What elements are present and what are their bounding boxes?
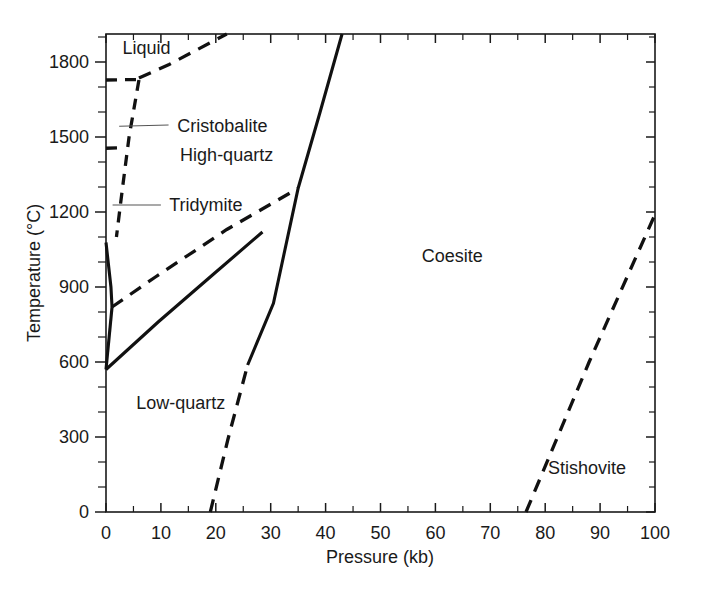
x-tick-label-70: 70 xyxy=(480,523,500,543)
x-tick-label-20: 20 xyxy=(206,523,226,543)
x-tick-label-10: 10 xyxy=(151,523,171,543)
y-tick-label-1200: 1200 xyxy=(49,202,89,222)
curve-lowquartz-highquartz-solid xyxy=(106,307,112,370)
curve-lowquartz-tridymite-solid xyxy=(106,232,262,370)
curve-quartz-coesite-solid xyxy=(248,34,342,365)
y-tick-label-0: 0 xyxy=(79,502,89,522)
curve-cristobalite-liquid-flat xyxy=(106,80,139,81)
phase-label-liquid: Liquid xyxy=(122,38,170,58)
curve-highquartz-lowquartz-solid xyxy=(106,243,112,308)
tick-marks xyxy=(95,34,655,512)
phase-label-low-quartz: Low-quartz xyxy=(136,393,225,413)
axes xyxy=(106,34,655,512)
y-axis-title: Temperature (°C) xyxy=(24,204,44,342)
x-tick-label-30: 30 xyxy=(261,523,281,543)
x-tick-label-60: 60 xyxy=(425,523,445,543)
y-tick-label-900: 900 xyxy=(59,277,89,297)
y-tick-label-1500: 1500 xyxy=(49,127,89,147)
phase-label-stishovite: Stishovite xyxy=(548,458,626,478)
x-tick-label-0: 0 xyxy=(101,523,111,543)
y-tick-label-300: 300 xyxy=(59,427,89,447)
x-tick-label-90: 90 xyxy=(590,523,610,543)
phase-label-high-quartz: High-quartz xyxy=(180,145,273,165)
phase-label-tridymite: Tridymite xyxy=(169,195,242,215)
plot-frame xyxy=(106,34,655,512)
x-tick-label-40: 40 xyxy=(316,523,336,543)
phase-field-labels: LiquidCristobaliteHigh-quartzTridymiteLo… xyxy=(122,38,626,478)
y-tick-label-1800: 1800 xyxy=(49,52,89,72)
phase-diagram-figure: 0102030405060708090100030060090012001500… xyxy=(0,0,703,590)
cristobalite-leader xyxy=(119,125,168,126)
curve-quartz-coesite-dashed xyxy=(210,365,247,512)
phase-diagram-svg: 0102030405060708090100030060090012001500… xyxy=(0,0,703,590)
phase-label-coesite: Coesite xyxy=(422,246,483,266)
x-tick-label-50: 50 xyxy=(370,523,390,543)
phase-boundary-curves xyxy=(106,34,655,512)
x-tick-label-100: 100 xyxy=(640,523,670,543)
x-axis-title: Pressure (kb) xyxy=(326,547,434,567)
phase-label-cristobalite: Cristobalite xyxy=(177,116,267,136)
x-tick-label-80: 80 xyxy=(535,523,555,543)
curve-cristobalite-highquartz xyxy=(116,80,139,237)
curve-tridymite-cristobalite-flat xyxy=(106,148,125,149)
y-tick-label-600: 600 xyxy=(59,352,89,372)
